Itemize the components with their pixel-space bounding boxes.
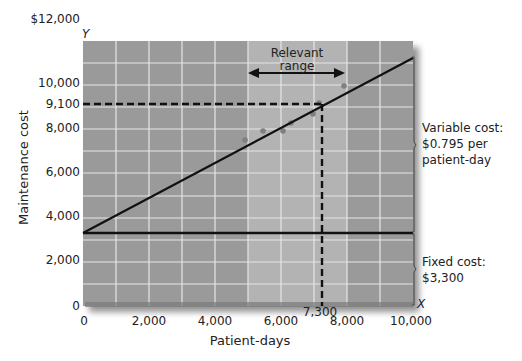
variable-cost-line3: patient-day	[422, 152, 503, 168]
fixed-cost-line1: Fixed cost:	[422, 254, 486, 270]
x-tick-7300: 7,300	[303, 305, 337, 319]
relevant-range-line2: range	[262, 60, 332, 73]
variable-cost-line1: Variable cost:	[422, 120, 503, 136]
variable-cost-note: Variable cost: $0.795 per patient-day	[422, 120, 503, 168]
x-tick-0: 0	[80, 314, 88, 328]
x-tick-10000: 10,000	[390, 314, 432, 328]
fixed-cost-line2: $3,300	[422, 270, 486, 286]
x-axis-title: Patient-days	[200, 333, 300, 348]
relevant-range-label: Relevant range	[262, 47, 332, 73]
x-axis-letter: X	[417, 297, 425, 311]
plot-area	[0, 0, 522, 361]
fixed-cost-note: Fixed cost: $3,300	[422, 254, 486, 286]
x-tick-2000: 2,000	[132, 314, 166, 328]
x-tick-6000: 6,000	[264, 314, 298, 328]
variable-cost-line2: $0.795 per	[422, 136, 503, 152]
x-tick-4000: 4,000	[198, 314, 232, 328]
